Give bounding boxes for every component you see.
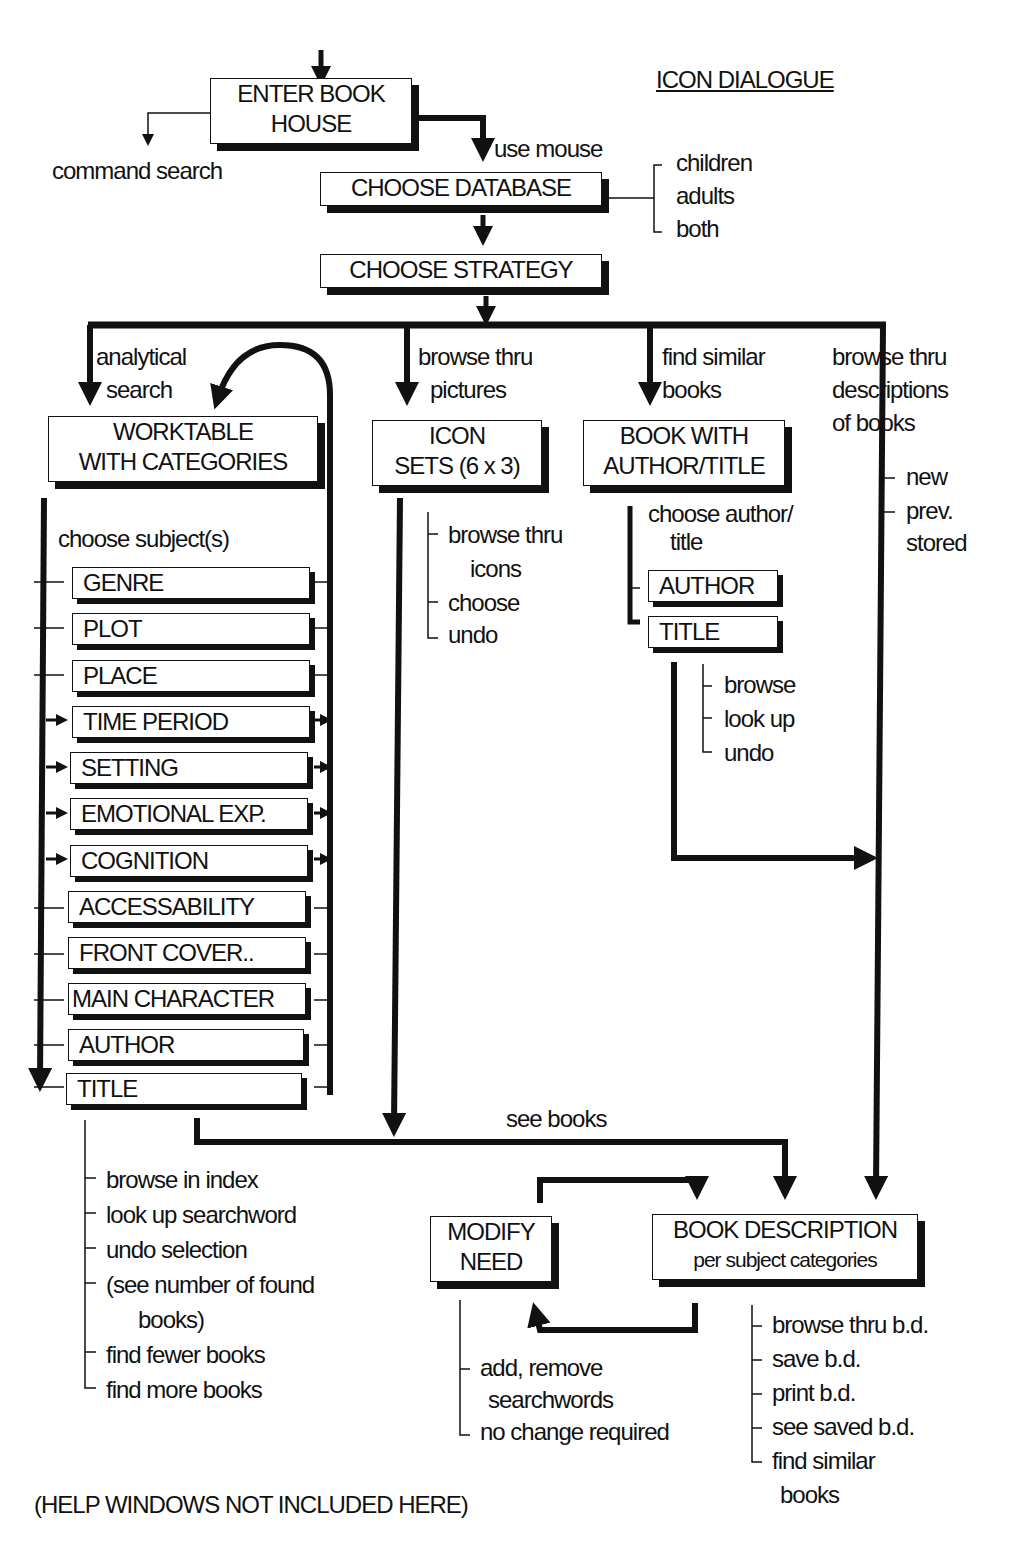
category-author[interactable]: AUTHOR — [68, 1029, 304, 1061]
option-both[interactable]: both — [676, 212, 752, 245]
label-line: browse thru — [832, 340, 948, 373]
category-main-character[interactable]: MAIN CHARACTER — [68, 983, 306, 1015]
box-line: MODIFY — [431, 1217, 551, 1247]
action-browse[interactable]: browse — [724, 668, 795, 702]
worktable-actions: browse in index look up searchword undo … — [106, 1162, 314, 1407]
modify-need-box[interactable]: MODIFY NEED — [430, 1216, 552, 1282]
category-genre[interactable]: GENRE — [72, 567, 310, 599]
analytical-search-label: analytical search — [96, 340, 186, 406]
label-line: descriptions — [832, 373, 948, 406]
use-mouse-label: use mouse — [494, 132, 602, 165]
action-find-more[interactable]: find more books — [106, 1372, 314, 1407]
label-line: of books — [832, 406, 948, 439]
action-look-up-searchword[interactable]: look up searchword — [106, 1197, 314, 1232]
database-options: children adults both — [676, 146, 752, 245]
modify-actions: add, remove searchwords no change requir… — [480, 1352, 669, 1448]
action-find-similar-cont: books — [772, 1478, 928, 1512]
label-line: find similar — [662, 340, 765, 373]
choose-author-title-label: choose author/ title — [648, 500, 793, 556]
category-cognition[interactable]: COGNITION — [70, 845, 308, 877]
label-line: analytical — [96, 340, 186, 373]
label-line: title — [648, 528, 793, 556]
choose-subjects-label: choose subject(s) — [58, 522, 229, 555]
category-setting[interactable]: SETTING — [70, 752, 308, 784]
box-line: per subject categories — [653, 1245, 917, 1275]
description-actions: browse thru b.d. save b.d. print b.d. se… — [772, 1308, 928, 1512]
diagram-title: ICON DIALOGUE — [656, 66, 834, 94]
book-author-title-box[interactable]: BOOK WITH AUTHOR/TITLE — [583, 420, 785, 486]
title-box[interactable]: TITLE — [648, 616, 778, 648]
box-line: SETS (6 x 3) — [373, 451, 541, 481]
category-accessability[interactable]: ACCESSABILITY — [68, 891, 306, 923]
category-front-cover[interactable]: FRONT COVER.. — [68, 937, 306, 969]
browse-descriptions-label: browse thru descriptions of books — [832, 340, 948, 439]
action-browse-icons-cont: icons — [448, 552, 562, 586]
command-search-label: command search — [52, 154, 222, 187]
action-undo[interactable]: undo — [448, 620, 562, 650]
source-stored[interactable]: stored — [906, 528, 967, 558]
box-line: WITH CATEGORIES — [49, 447, 317, 477]
source-prev[interactable]: prev. — [906, 494, 967, 528]
option-children[interactable]: children — [676, 146, 752, 179]
action-undo-selection[interactable]: undo selection — [106, 1232, 314, 1267]
choose-strategy-box[interactable]: CHOOSE STRATEGY — [320, 254, 602, 288]
action-find-similar[interactable]: find similar — [772, 1444, 928, 1478]
found-count-note: (see number of found — [106, 1267, 314, 1302]
action-undo[interactable]: undo — [724, 736, 795, 770]
book-description-box[interactable]: BOOK DESCRIPTION per subject categories — [652, 1214, 918, 1280]
found-count-note-cont: books) — [106, 1302, 314, 1337]
option-adults[interactable]: adults — [676, 179, 752, 212]
category-emotional-exp[interactable]: EMOTIONAL EXP. — [70, 798, 308, 830]
icon-sets-box[interactable]: ICON SETS (6 x 3) — [372, 420, 542, 486]
box-line: WORKTABLE — [49, 417, 317, 447]
action-no-change[interactable]: no change required — [480, 1416, 669, 1448]
label-line: books — [662, 373, 765, 406]
box-line: HOUSE — [211, 109, 411, 139]
action-choose[interactable]: choose — [448, 586, 562, 620]
choose-database-box[interactable]: CHOOSE DATABASE — [320, 172, 602, 206]
box-line: NEED — [431, 1247, 551, 1277]
action-browse-icons[interactable]: browse thru — [448, 518, 562, 552]
label-line: search — [96, 373, 186, 406]
action-look-up[interactable]: look up — [724, 702, 795, 736]
category-place[interactable]: PLACE — [72, 660, 310, 692]
box-line: ENTER BOOK — [211, 79, 411, 109]
action-see-saved-bd[interactable]: see saved b.d. — [772, 1410, 928, 1444]
label-line: browse thru — [418, 340, 532, 373]
footer-note: (HELP WINDOWS NOT INCLUDED HERE) — [34, 1488, 468, 1521]
author-box[interactable]: AUTHOR — [648, 570, 778, 602]
box-line: BOOK WITH — [584, 421, 784, 451]
browse-pictures-label: browse thru pictures — [418, 340, 532, 406]
label-line: pictures — [418, 373, 532, 406]
category-title[interactable]: TITLE — [66, 1073, 302, 1105]
action-save-bd[interactable]: save b.d. — [772, 1342, 928, 1376]
box-line: AUTHOR/TITLE — [584, 451, 784, 481]
action-add-remove-cont: searchwords — [480, 1384, 669, 1416]
action-find-fewer[interactable]: find fewer books — [106, 1337, 314, 1372]
see-books-label: see books — [506, 1102, 606, 1135]
label-line: choose author/ — [648, 500, 793, 528]
enter-book-house-box[interactable]: ENTER BOOK HOUSE — [210, 78, 412, 144]
category-plot[interactable]: PLOT — [72, 613, 310, 645]
description-sources: new prev. stored — [906, 460, 967, 558]
action-browse-index[interactable]: browse in index — [106, 1162, 314, 1197]
title-actions: browse look up undo — [724, 668, 795, 770]
action-print-bd[interactable]: print b.d. — [772, 1376, 928, 1410]
worktable-box[interactable]: WORKTABLE WITH CATEGORIES — [48, 416, 318, 482]
action-add-remove[interactable]: add, remove — [480, 1352, 669, 1384]
box-line: BOOK DESCRIPTION — [653, 1215, 917, 1245]
category-time-period[interactable]: TIME PERIOD — [72, 706, 310, 738]
source-new[interactable]: new — [906, 460, 967, 494]
find-similar-label: find similar books — [662, 340, 765, 406]
box-line: ICON — [373, 421, 541, 451]
icon-actions: browse thru icons choose undo — [448, 518, 562, 650]
action-browse-bd[interactable]: browse thru b.d. — [772, 1308, 928, 1342]
